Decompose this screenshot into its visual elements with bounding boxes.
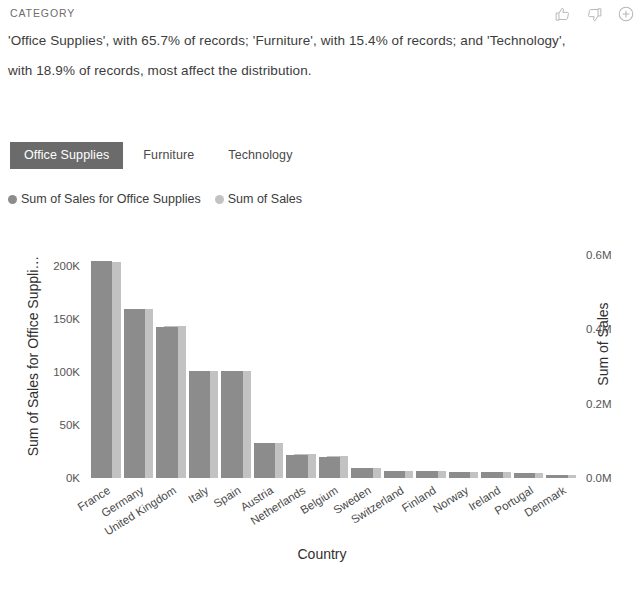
bar-sum-of-sales-office-supplies[interactable]: [221, 371, 242, 478]
header-actions: [552, 4, 636, 24]
x-axis-label-slot: Italy: [188, 480, 221, 550]
bar-sum-of-sales-office-supplies[interactable]: [481, 472, 502, 478]
bar-slot[interactable]: [253, 240, 286, 478]
tab-furniture[interactable]: Furniture: [129, 142, 208, 169]
combo-bar-chart: Sum of Sales for Office Suppli… Sum of S…: [0, 228, 644, 590]
legend-swatch-icon: [215, 195, 224, 204]
legend-swatch-icon: [8, 195, 17, 204]
tab-technology[interactable]: Technology: [214, 142, 306, 169]
bar-group-container: [90, 240, 578, 478]
bar-slot[interactable]: [383, 240, 416, 478]
bar-sum-of-sales-office-supplies[interactable]: [91, 261, 112, 478]
category-tabs: Office Supplies Furniture Technology: [10, 142, 307, 169]
legend-item-office-supplies[interactable]: Sum of Sales for Office Supplies: [8, 192, 201, 206]
bar-slot[interactable]: [480, 240, 513, 478]
legend-item-sum-of-sales[interactable]: Sum of Sales: [215, 192, 302, 206]
x-axis-label-slot: Ireland: [480, 480, 513, 550]
bar-slot[interactable]: [285, 240, 318, 478]
bar-slot[interactable]: [350, 240, 383, 478]
bar-sum-of-sales-office-supplies[interactable]: [189, 371, 210, 478]
x-axis-title: Country: [0, 546, 644, 562]
bar-sum-of-sales-office-supplies[interactable]: [124, 309, 145, 478]
tab-office-supplies[interactable]: Office Supplies: [10, 142, 123, 169]
plot-area: [90, 240, 578, 478]
legend-label: Sum of Sales: [228, 192, 302, 206]
x-axis-label-slot: Spain: [220, 480, 253, 550]
x-axis-label-slot: Switzerland: [383, 480, 416, 550]
bar-slot[interactable]: [318, 240, 351, 478]
bar-slot[interactable]: [188, 240, 221, 478]
insight-card-header: CATEGORY 'Office Supplies', with 65.7% o…: [0, 0, 644, 118]
bar-slot[interactable]: [545, 240, 578, 478]
category-eyebrow: CATEGORY: [10, 7, 75, 19]
y-axis-left-tick: 100K: [53, 366, 80, 378]
add-circle-icon[interactable]: [616, 4, 636, 24]
bar-sum-of-sales-office-supplies[interactable]: [351, 468, 372, 478]
bar-sum-of-sales-office-supplies[interactable]: [514, 473, 535, 478]
chart-legend: Sum of Sales for Office Supplies Sum of …: [8, 192, 302, 206]
bar-slot[interactable]: [415, 240, 448, 478]
x-axis-label[interactable]: Italy: [186, 484, 210, 505]
y-axis-left-tick: 150K: [53, 313, 80, 325]
y-axis-right-tick: 0.4M: [586, 323, 612, 335]
x-axis-label-slot: Norway: [448, 480, 481, 550]
bar-slot[interactable]: [220, 240, 253, 478]
y-axis-right-ticks: 0.0M0.2M0.4M0.6M: [584, 240, 630, 478]
y-axis-left-tick: 50K: [60, 419, 80, 431]
x-axis-label-slot: Netherlands: [285, 480, 318, 550]
thumbs-down-icon[interactable]: [584, 4, 604, 24]
x-axis-label-slot: Finland: [415, 480, 448, 550]
bar-sum-of-sales-office-supplies[interactable]: [319, 457, 340, 478]
y-axis-left-ticks: 0K50K100K150K200K: [38, 240, 84, 478]
bar-sum-of-sales-office-supplies[interactable]: [254, 443, 275, 478]
bar-slot[interactable]: [513, 240, 546, 478]
insight-text: 'Office Supplies', with 65.7% of records…: [8, 26, 584, 86]
y-axis-right-tick: 0.2M: [586, 398, 612, 410]
bar-sum-of-sales-office-supplies[interactable]: [449, 472, 470, 478]
x-axis-label-slot: Belgium: [318, 480, 351, 550]
x-axis-labels: FranceGermanyUnited KingdomItalySpainAus…: [90, 480, 578, 550]
bar-slot[interactable]: [448, 240, 481, 478]
y-axis-left-tick: 200K: [53, 260, 80, 272]
thumbs-up-icon[interactable]: [552, 4, 572, 24]
bar-sum-of-sales-office-supplies[interactable]: [156, 327, 177, 478]
bar-slot[interactable]: [90, 240, 123, 478]
x-axis-label-slot: Denmark: [545, 480, 578, 550]
y-axis-right-tick: 0.6M: [586, 249, 612, 261]
bar-sum-of-sales-office-supplies[interactable]: [416, 471, 437, 478]
y-axis-left-tick: 0K: [66, 472, 80, 484]
bar-slot[interactable]: [123, 240, 156, 478]
bar-sum-of-sales-office-supplies[interactable]: [546, 475, 567, 478]
y-axis-right-tick: 0.0M: [586, 472, 612, 484]
x-axis-label-slot: United Kingdom: [155, 480, 188, 550]
bar-slot[interactable]: [155, 240, 188, 478]
bar-sum-of-sales-office-supplies[interactable]: [286, 455, 307, 478]
bar-sum-of-sales-office-supplies[interactable]: [384, 471, 405, 478]
legend-label: Sum of Sales for Office Supplies: [21, 192, 201, 206]
